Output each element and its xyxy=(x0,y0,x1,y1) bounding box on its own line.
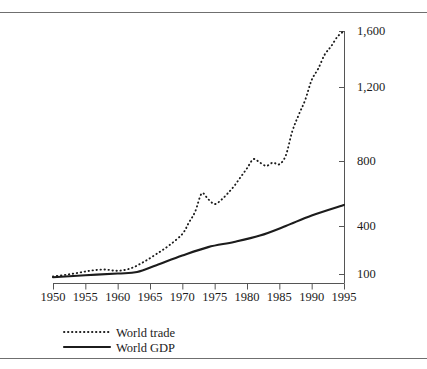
chart-plot-area xyxy=(0,0,427,369)
x-axis-tick-label: 1955 xyxy=(73,291,98,304)
x-axis-tick-label: 1950 xyxy=(41,291,66,304)
x-axis-tick-label: 1995 xyxy=(332,291,357,304)
x-axis-tick-label: 1985 xyxy=(267,291,292,304)
x-axis-tick-label: 1965 xyxy=(138,291,163,304)
legend-label-world-gdp: World GDP xyxy=(116,342,175,355)
x-axis-tick-label: 1990 xyxy=(299,291,324,304)
series-line-world-gdp xyxy=(53,205,344,277)
y-axis-tick-label: 1,200 xyxy=(357,81,385,94)
x-axis-ticks xyxy=(54,284,345,290)
x-axis-tick-label: 1970 xyxy=(170,291,195,304)
y-axis-tick-label: 100 xyxy=(357,268,376,281)
series-line-world-trade xyxy=(53,31,344,276)
x-axis-tick-label: 1960 xyxy=(105,291,130,304)
x-axis-tick-label: 1980 xyxy=(235,291,260,304)
figure-container: 1004008001,2001,600 19501955196019651970… xyxy=(0,0,427,369)
x-axis-tick-label: 1975 xyxy=(202,291,227,304)
legend-label-world-trade: World trade xyxy=(116,327,175,340)
y-axis-tick-label: 800 xyxy=(357,155,376,168)
y-axis-tick-label: 1,600 xyxy=(357,25,385,38)
y-axis-tick-label: 400 xyxy=(357,220,376,233)
